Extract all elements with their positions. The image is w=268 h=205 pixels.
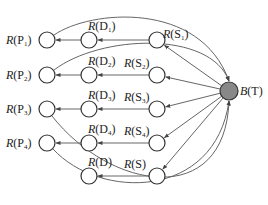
- node-P3: [39, 101, 55, 117]
- label-S2: R(S2): [124, 57, 150, 73]
- label-P4: R(P4): [6, 137, 32, 153]
- node-S3: [149, 101, 165, 117]
- edge-BT-to-S1: [164, 45, 221, 86]
- node-D: [81, 168, 97, 184]
- label-D1: R(D1): [88, 20, 116, 36]
- label-D4: R(D4): [88, 123, 116, 139]
- node-S4: [149, 135, 165, 151]
- label-D3: R(D3): [88, 89, 116, 105]
- label-P2: R(P2): [6, 69, 32, 85]
- edge-BT-to-S3: [166, 93, 221, 107]
- label-D2: R(D2): [88, 55, 116, 71]
- label-S: R(S): [124, 158, 146, 170]
- node-target-BT: [220, 82, 238, 100]
- node-P2: [39, 67, 55, 83]
- label-BT: B(T): [240, 85, 263, 97]
- edge-BT-to-S4: [164, 96, 221, 137]
- label-P3: R(P3): [6, 103, 32, 119]
- edge-BT-to-S: [163, 98, 223, 169]
- node-S2: [149, 67, 165, 83]
- label-S1: R(S1): [163, 28, 189, 44]
- label-S3: R(S3): [124, 91, 150, 107]
- diagram-canvas: R(P1)R(P2)R(P3)R(P4)R(D1)R(D2)R(D3)R(D4)…: [0, 0, 268, 205]
- node-P4: [39, 135, 55, 151]
- node-P1: [39, 32, 55, 48]
- label-S4: R(S4): [124, 125, 150, 141]
- label-P1: R(P1): [6, 34, 32, 50]
- label-D: R(D): [88, 156, 112, 168]
- node-S: [149, 168, 165, 184]
